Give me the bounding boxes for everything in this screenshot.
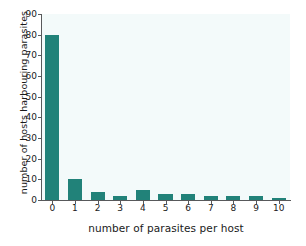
y-tick-label: 0 <box>16 195 37 205</box>
y-tick-label: 40 <box>16 112 37 122</box>
x-tick-label: 7 <box>208 203 214 213</box>
x-tick-label: 4 <box>140 203 146 213</box>
y-axis-line <box>41 14 42 201</box>
x-tick-label: 8 <box>231 203 237 213</box>
bar <box>68 179 82 200</box>
y-tick-label: 30 <box>16 133 37 143</box>
bar <box>45 35 59 200</box>
bar <box>136 190 150 200</box>
y-tick-label: 80 <box>16 30 37 40</box>
x-tick-label: 3 <box>117 203 123 213</box>
y-tick-label: 70 <box>16 50 37 60</box>
bar-chart-figure: number of hosts harbouring parasites 010… <box>0 0 306 246</box>
x-tick-label: 5 <box>163 203 169 213</box>
bar <box>91 192 105 200</box>
x-tick-label: 1 <box>72 203 78 213</box>
x-tick-label: 9 <box>253 203 259 213</box>
y-axis-tick-labels: 0102030405060708090 <box>16 14 37 200</box>
y-tick-label: 20 <box>16 154 37 164</box>
x-tick-label: 0 <box>49 203 55 213</box>
x-tick-label: 2 <box>95 203 101 213</box>
y-tick-label: 60 <box>16 71 37 81</box>
y-tick-label: 50 <box>16 92 37 102</box>
x-axis-line <box>41 200 291 201</box>
y-tick-label: 90 <box>16 9 37 19</box>
y-tick-label: 10 <box>16 174 37 184</box>
x-axis-title: number of parasites per host <box>41 222 291 234</box>
x-axis-tick-labels: 012345678910 <box>41 203 291 216</box>
x-tick-label: 10 <box>273 203 284 213</box>
x-tick-label: 6 <box>185 203 191 213</box>
plot-area <box>41 14 290 200</box>
